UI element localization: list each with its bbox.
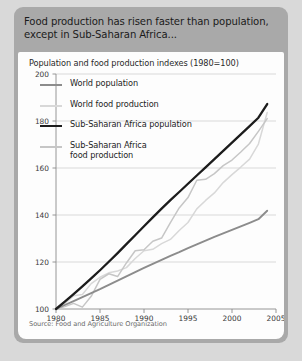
x-axis-label: 1995 [173,314,203,323]
legend-swatch-line-icon [40,84,62,86]
y-axis-label: 100 [27,305,49,314]
figure-card: Food production has risen faster than po… [14,7,288,343]
y-axis-label: 200 [27,70,49,79]
legend-label: Sub-Saharan Africa food production [70,140,148,161]
legend-item: Sub-Saharan Africa food production [40,142,240,168]
legend-label: Sub-Saharan Africa population [70,119,192,129]
x-axis-label: 2005 [261,314,284,323]
chart-panel: Population and food production indexes (… [18,52,284,339]
y-axis-label: 140 [27,211,49,220]
legend-label: World population [70,78,138,88]
legend-item: Sub-Saharan Africa population [40,121,240,142]
chart-source: Source: Food and Agriculture Organizatio… [29,320,167,328]
x-axis-label: 2000 [217,314,247,323]
data-line-world-population [56,211,267,309]
chart-legend: World populationWorld food productionSub… [40,80,240,168]
y-axis-label: 120 [27,258,49,267]
legend-item: World food production [40,101,240,122]
figure-headline: Food production has risen faster than po… [24,15,280,41]
legend-label: World food production [70,99,159,109]
legend-item: World population [40,80,240,101]
legend-swatch-line-icon [40,146,62,148]
legend-swatch-line-icon [40,125,62,128]
legend-swatch-line-icon [40,105,62,107]
